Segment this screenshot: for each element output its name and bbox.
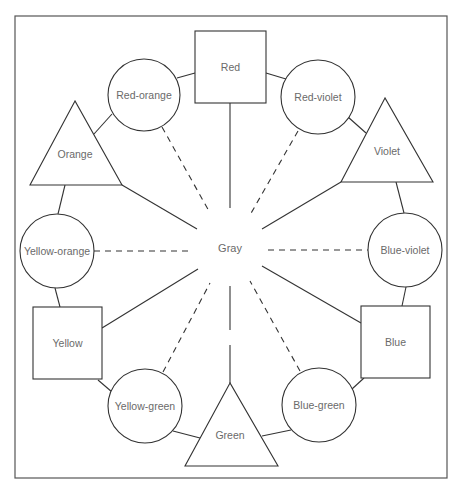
node-yellow: Yellow xyxy=(33,307,102,379)
node-yellow-green: Yellow-green xyxy=(108,369,182,443)
node-label: Blue-violet xyxy=(380,244,429,256)
node-label: Red-violet xyxy=(294,91,341,103)
node-label: Yellow-orange xyxy=(24,245,90,257)
node-red: Red xyxy=(195,31,266,103)
node-label: Red xyxy=(221,61,240,73)
node-blue-green: Blue-green xyxy=(282,368,356,442)
node-label: Orange xyxy=(57,148,92,160)
node-red-violet: Red-violet xyxy=(281,60,355,134)
node-blue: Blue xyxy=(361,306,430,378)
node-label: Red-orange xyxy=(116,89,172,101)
node-label: Violet xyxy=(374,145,400,157)
node-label: Blue-green xyxy=(293,399,345,411)
node-red-orange: Red-orange xyxy=(108,59,180,131)
node-label: Blue xyxy=(385,336,406,348)
center-label-gray: Gray xyxy=(218,242,242,254)
node-yellow-orange: Yellow-orange xyxy=(20,214,94,288)
node-blue-violet: Blue-violet xyxy=(368,213,442,287)
node-label: Yellow-green xyxy=(115,400,175,412)
node-label: Yellow xyxy=(53,337,83,349)
node-label: Green xyxy=(215,429,244,441)
color-wheel-diagram: Red Yellow Blue Orange Violet Green Red-… xyxy=(0,0,457,484)
